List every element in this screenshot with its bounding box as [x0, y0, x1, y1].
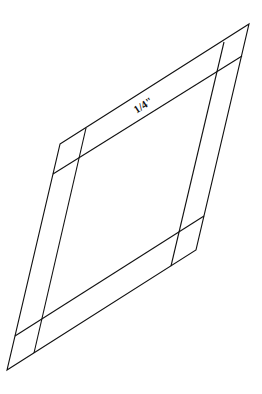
inner-left-line [34, 128, 86, 353]
inner-right-line [171, 42, 224, 266]
parallelogram-diagram: 1/4" [0, 0, 262, 394]
inner-top-line [53, 56, 242, 174]
inner-bottom-line [15, 216, 204, 336]
